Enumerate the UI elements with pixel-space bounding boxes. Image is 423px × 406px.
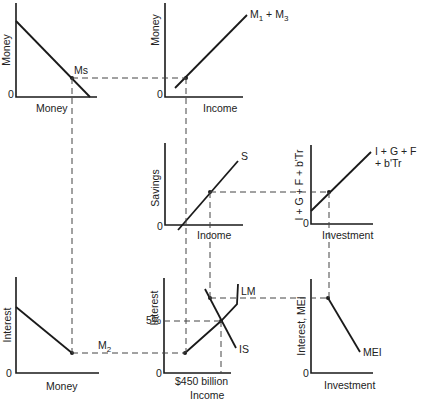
- mei-label: MEI: [363, 346, 382, 358]
- y-axis-label: Savings: [149, 169, 161, 206]
- axes: [311, 279, 373, 373]
- x-axis-label: Investment: [324, 379, 375, 391]
- panel-transactions-demand: 0 Income Money M1 + M3: [149, 3, 289, 114]
- x-axis-label: Money: [36, 102, 68, 114]
- panel-is-lm: 0 $450 billion Income 5% Interest LM IS: [146, 278, 256, 401]
- is-label: IS: [239, 343, 249, 355]
- s-label: S: [241, 150, 248, 162]
- axes: [165, 143, 243, 225]
- savings-curve: [178, 161, 238, 230]
- ms-label: Ms: [74, 64, 88, 76]
- axes: [16, 3, 97, 97]
- axes: [16, 277, 99, 373]
- origin-label: 0: [156, 367, 162, 379]
- x-axis-label: Investment: [322, 229, 373, 241]
- y-axis-label: Interest: [148, 290, 160, 325]
- m2-curve: [16, 307, 72, 353]
- lm-label: LM: [241, 285, 256, 297]
- x-axis-label: Income: [190, 389, 225, 401]
- panel-liquidity-preference: 0 Money Interest M2: [1, 277, 112, 392]
- y-axis-label: Interest: [1, 307, 13, 342]
- x-axis-label: Income: [197, 229, 232, 241]
- panel-injections: 0 Investment I + G + F + b'Tr I + G + F …: [293, 145, 416, 241]
- panel-mei: 0 Investment Interest, MEI MEI: [295, 279, 382, 391]
- y-axis-label: Money: [0, 33, 12, 65]
- injections-label-line1: I + G + F: [375, 145, 416, 157]
- x-axis-label: Income: [203, 102, 238, 114]
- y-axis-label: Money: [149, 13, 161, 45]
- is-lm-diagram: 0 Money Money Ms 0 Income Money M1 + M3 …: [0, 0, 423, 406]
- origin-label: 0: [6, 367, 12, 379]
- mei-curve: [328, 298, 360, 352]
- x-tick-label: $450 billion: [175, 375, 228, 387]
- origin-label: 0: [303, 367, 309, 379]
- panel-money-supply: 0 Money Money Ms: [0, 3, 97, 114]
- axes: [165, 3, 243, 97]
- ms-curve: [16, 21, 90, 97]
- origin-label: 0: [8, 88, 14, 100]
- m1-m3-label: M1 + M3: [250, 8, 289, 23]
- x-axis-label: Money: [46, 380, 78, 392]
- injections-curve: [311, 152, 371, 211]
- injections-label-line2: + b'Tr: [375, 157, 402, 169]
- origin-label: 0: [157, 220, 163, 232]
- axes: [311, 145, 373, 224]
- y-axis-label: I + G + F + b'Tr: [293, 149, 305, 220]
- lm-curve: [185, 284, 238, 353]
- m2-label: M2: [98, 339, 112, 354]
- origin-label: 0: [157, 88, 163, 100]
- y-axis-label: Interest, MEI: [295, 296, 307, 356]
